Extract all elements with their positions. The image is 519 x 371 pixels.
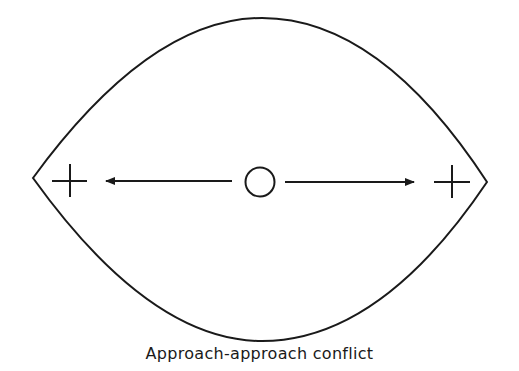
person-circle-icon	[246, 168, 275, 197]
right-positive-goal-icon	[434, 165, 470, 198]
diagram-caption: Approach-approach conflict	[0, 344, 519, 363]
field-boundary	[33, 18, 487, 341]
conflict-diagram	[0, 0, 519, 371]
left-positive-goal-icon	[52, 164, 87, 197]
